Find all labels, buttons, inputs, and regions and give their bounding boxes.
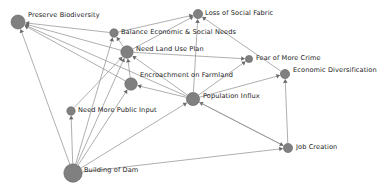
edge-building_of_dam-to-preserve_biodiversity [21,29,70,164]
arrowhead-population_influx-to-economic_diversification [276,74,280,78]
arrowhead-encroachment_farmland-to-need_land_use_plan [126,59,131,63]
node-label-fear_more_crime: Fear of More Crime [256,54,321,62]
node-label-need_land_use_plan: Need Land Use Plan [136,45,204,53]
node-job_creation[interactable] [283,143,292,152]
node-label-loss_social_fabric: Loss of Social Fabric [205,9,273,17]
node-preserve_biodiversity[interactable] [11,15,25,29]
arrowhead-population_influx-to-loss_social_fabric [195,19,200,23]
node-economic_diversification[interactable] [280,69,289,78]
node-population_influx[interactable] [186,92,199,105]
edge-population_influx-to-encroachment_farmland [138,86,187,98]
node-label-population_influx: Population Influx [203,92,260,100]
arrowhead-economic_diversification-to-loss_social_fabric [202,17,206,21]
arrowhead-population_influx-to-encroachment_farmland [138,84,142,88]
node-fear_more_crime[interactable] [245,55,252,62]
arrowhead-building_of_dam-to-need_public_input [69,116,74,120]
arrowhead-job_creation-to-economic_diversification [283,79,288,83]
edge-economic_diversification-to-loss_social_fabric [202,17,281,71]
node-encroachment_farmland[interactable] [125,78,137,90]
node-building_of_dam[interactable] [64,164,82,182]
node-label-balance_economic_social: Balance Economic & Social Needs [121,28,236,36]
edge-building_of_dam-to-encroachment_farmland [78,90,127,165]
node-balance_economic_social[interactable] [110,29,118,37]
arrowhead-need_land_use_plan-to-balance_economic_social [117,37,121,41]
node-label-economic_diversification: Economic Diversification [293,66,377,74]
arrowhead-need_land_use_plan-to-fear_more_crime [241,56,245,61]
arrowhead-population_influx-to-fear_more_crime [241,61,245,65]
edge-job_creation-to-economic_diversification [285,79,288,143]
edge-need_land_use_plan-to-fear_more_crime [134,52,245,58]
node-loss_social_fabric[interactable] [193,9,202,18]
arrowhead-building_of_dam-to-encroachment_farmland [123,90,127,94]
node-label-building_of_dam: Building of Dam [84,166,138,174]
edge-need_public_input-to-need_land_use_plan [74,57,122,108]
edge-population_influx-to-job_creation [199,102,283,145]
arrowhead-population_influx-to-need_land_use_plan [133,56,137,60]
arrowhead-building_of_dam-to-job_creation [279,147,283,152]
node-need_land_use_plan[interactable] [121,46,133,58]
node-label-preserve_biodiversity: Preserve Biodiversity [28,11,100,19]
influence-diagram-canvas: Preserve BiodiversityBalance Economic & … [0,0,383,191]
edge-building_of_dam-to-need_public_input [71,116,73,164]
node-need_public_input[interactable] [67,107,75,115]
node-label-need_public_input: Need More Public Input [78,106,157,114]
node-label-job_creation: Job Creation [296,143,337,151]
node-label-encroachment_farmland: Encroachment on Farmland [140,71,233,79]
